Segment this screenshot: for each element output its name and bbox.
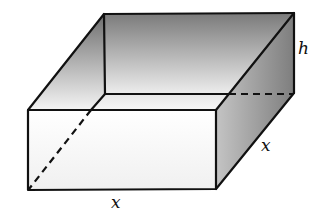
box-diagram: h x x [0, 0, 312, 217]
front-face [28, 110, 216, 190]
inner-floor [91, 94, 229, 110]
width-label: x [111, 192, 121, 212]
height-label: h [298, 38, 309, 58]
depth-label: x [261, 135, 271, 155]
